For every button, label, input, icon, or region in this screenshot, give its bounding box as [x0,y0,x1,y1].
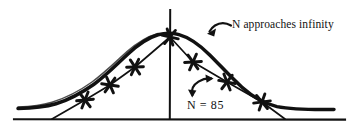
asterisk-marker-icon [252,93,271,110]
curved-double-arrow-icon [188,75,214,98]
asterisk-marker-icon [218,74,237,91]
bell-curve-figure: N approaches infinity N = 85 [0,0,350,127]
smooth-bell-curve [18,33,334,109]
limit-annotation-label: N approaches infinity [232,18,334,31]
asterisk-marker-icon [101,77,119,93]
sampled-polyline [52,37,285,119]
curved-arrow-left-icon [207,23,231,36]
sample-size-annotation-label: N = 85 [187,98,224,112]
